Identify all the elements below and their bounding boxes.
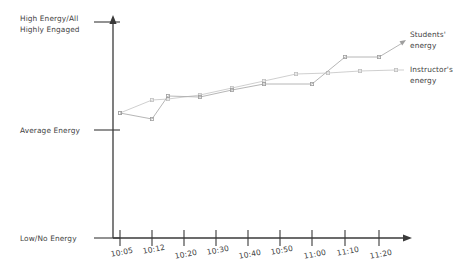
y-axis-arrowhead xyxy=(109,15,116,24)
legend-label-instructor-energy: Instructor's energy xyxy=(410,65,472,86)
y-axis-ticks xyxy=(94,22,120,238)
y-axis xyxy=(109,15,116,238)
energy-chart: High Energy/All Highly Engaged Average E… xyxy=(0,0,473,275)
series-instructor-energy xyxy=(118,68,404,114)
y-axis-label-average-energy: Average Energy xyxy=(20,126,92,137)
x-axis-arrowhead xyxy=(403,234,412,241)
x-axis xyxy=(113,234,412,241)
instructor-line xyxy=(120,70,396,113)
y-axis-label-low-energy: Low/No Energy xyxy=(20,234,92,245)
legend-label-students-energy: Students' energy xyxy=(410,30,472,51)
students-line-arrowhead xyxy=(400,40,407,46)
y-axis-label-high-energy: High Energy/All Highly Engaged xyxy=(20,14,92,35)
